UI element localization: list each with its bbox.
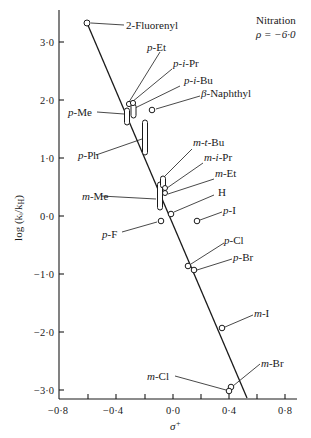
label-p-ph: p-Ph xyxy=(77,149,99,161)
point-p-i xyxy=(194,218,200,224)
y-tick-label: 1·0 xyxy=(40,153,54,164)
x-tick-label: 0·4 xyxy=(222,405,237,416)
x-tick-label: −0·8 xyxy=(48,405,68,416)
point-p-cl xyxy=(185,263,191,269)
x-tick-label: 0·0 xyxy=(166,405,180,416)
label-p-i-pr: p-i-Pr xyxy=(172,57,199,69)
y-tick-label: −2·0 xyxy=(34,327,54,338)
point-2-fluorenyl xyxy=(84,20,90,26)
label-p-br: p-Br xyxy=(232,251,254,263)
x-tick-label: 0·8 xyxy=(278,405,292,416)
label-m-i: m-I xyxy=(254,307,270,319)
hammett-plot: 3·0 2·0 1·0 0·0 −1·0 −2·0 −3·0 −0·8 −0·4… xyxy=(0,0,311,438)
x-tick-label: −0·4 xyxy=(103,405,124,416)
point-m-i-pr xyxy=(163,186,168,191)
point-p-me xyxy=(125,108,130,125)
label-2-fluorenyl: 2-Fluorenyl xyxy=(126,19,178,31)
point-labels: 2-Fluorenyl p-Et p-i-Pr p-i-Bu β-Naphthy… xyxy=(67,19,284,382)
chart-title: Nitration xyxy=(256,14,296,26)
point-beta-naphthyl xyxy=(149,107,155,113)
x-axis-title: σ+ xyxy=(170,419,181,432)
point-p-i-pr xyxy=(130,100,135,105)
label-p-i: p-I xyxy=(222,204,236,216)
y-tick-label: 0·0 xyxy=(40,211,54,222)
point-p-f xyxy=(158,218,164,224)
point-m-i xyxy=(219,325,225,331)
y-axis-title: log (kᵢ/kH) xyxy=(12,195,26,241)
label-p-et: p-Et xyxy=(146,41,166,53)
x-tick-labels: −0·8 −0·4 0·0 0·4 0·8 xyxy=(48,405,292,416)
label-p-cl: p-Cl xyxy=(223,234,244,246)
point-p-br xyxy=(191,267,197,273)
point-p-ph xyxy=(143,120,148,155)
y-tick-label: 2·0 xyxy=(40,95,54,106)
label-m-br: m-Br xyxy=(261,357,284,369)
point-m-et xyxy=(163,191,168,196)
label-p-f: p-F xyxy=(101,228,117,240)
label-m-et: m-Et xyxy=(215,167,236,179)
y-tick-label: 3·0 xyxy=(40,37,54,48)
point-m-cl xyxy=(226,388,232,394)
y-tick-label: −3·0 xyxy=(34,385,54,396)
label-m-me: m-Me xyxy=(82,190,108,202)
label-p-i-bu: p-i-Bu xyxy=(183,74,213,86)
y-tick-label: −1·0 xyxy=(34,269,54,280)
label-p-me: p-Me xyxy=(67,106,92,118)
label-m-cl: m-Cl xyxy=(147,370,169,382)
rho-annotation: ρ = −6·0 xyxy=(255,28,296,40)
point-h xyxy=(168,211,174,217)
y-tick-labels: 3·0 2·0 1·0 0·0 −1·0 −2·0 −3·0 xyxy=(34,37,54,396)
label-h: H xyxy=(218,186,226,198)
point-p-i-bu xyxy=(131,104,136,118)
label-m-t-bu: m-t-Bu xyxy=(193,136,225,148)
label-beta-naphthyl: β-Naphthyl xyxy=(200,87,251,99)
label-m-i-pr: m-i-Pr xyxy=(204,151,232,163)
